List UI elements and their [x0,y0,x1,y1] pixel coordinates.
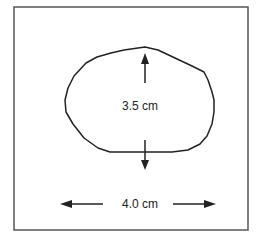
width-arrow-left [60,200,103,208]
measurement-diagram: 3.5 cm 4.0 cm [0,0,262,240]
height-arrow-up [141,53,149,83]
width-arrow-right [173,200,216,208]
height-arrow-down [141,140,149,170]
height-label: 3.5 cm [122,99,158,113]
width-label: 4.0 cm [122,197,158,211]
